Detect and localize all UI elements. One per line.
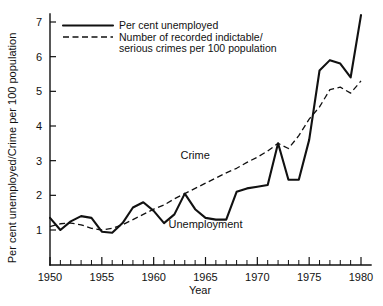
chart-canvas: 1234567 1950195519601965197019751980 Cri… — [0, 0, 383, 306]
y-tick-label: 5 — [36, 85, 42, 97]
y-tick-label: 3 — [36, 155, 42, 167]
x-axis-title: Year — [189, 284, 212, 296]
x-tick-label: 1980 — [349, 271, 373, 283]
x-axis-ticks — [50, 257, 361, 265]
annotation-crime: Crime — [180, 149, 209, 161]
y-tick-label: 2 — [36, 189, 42, 201]
y-tick-label: 1 — [36, 224, 42, 236]
chart-legend: Per cent unemployed Number of recorded i… — [63, 19, 277, 54]
y-axis-ticks — [50, 22, 56, 230]
x-tick-label: 1960 — [141, 271, 165, 283]
x-tick-label: 1950 — [38, 271, 62, 283]
legend-label-crime-line2: serious crimes per 100 population — [119, 42, 277, 54]
x-tick-label: 1955 — [90, 271, 114, 283]
y-tick-label: 7 — [36, 16, 42, 28]
legend-label-unemployment: Per cent unemployed — [119, 19, 218, 31]
y-tick-label: 4 — [36, 120, 42, 132]
y-tick-label: 6 — [36, 51, 42, 63]
plot-annotations: CrimeUnemployment — [169, 149, 243, 230]
x-axis-tick-labels: 1950195519601965197019751980 — [38, 271, 373, 283]
x-tick-label: 1970 — [245, 271, 269, 283]
annotation-unemployment: Unemployment — [169, 218, 243, 230]
y-axis-tick-labels: 1234567 — [36, 16, 42, 236]
x-tick-label: 1975 — [297, 271, 321, 283]
y-axis-title: Per cent unemployed/Crime per 100 popula… — [6, 33, 18, 264]
x-tick-label: 1965 — [193, 271, 217, 283]
unemployment-crime-chart: 1234567 1950195519601965197019751980 Cri… — [0, 0, 383, 306]
